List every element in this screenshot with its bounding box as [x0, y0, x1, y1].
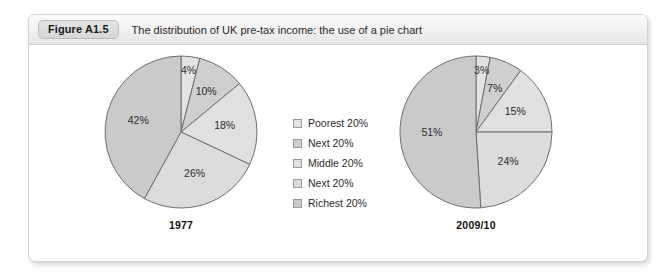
legend-item-next-20-lower: Next 20% — [293, 133, 389, 153]
pie-chart-1977: 4%10%18%26%42% 1977 — [101, 54, 261, 231]
legend-swatch-icon — [293, 199, 302, 208]
pie-slice-label: 42% — [128, 114, 149, 126]
legend-item-label: Poorest 20% — [308, 117, 368, 129]
legend-item-richest-20: Richest 20% — [293, 193, 389, 213]
chart-body: 4%10%18%26%42% 1977 Poorest 20% Next 20%… — [29, 45, 647, 262]
legend-item-label: Richest 20% — [308, 197, 367, 209]
pie-caption-1977: 1977 — [101, 219, 261, 231]
pie-chart-2009-10: 3%7%15%24%51% 2009/10 — [396, 54, 556, 231]
figure-panel: Figure A1.5 The distribution of UK pre-t… — [28, 14, 648, 262]
legend-swatch-icon — [293, 159, 302, 168]
pie-slice-label: 24% — [498, 155, 519, 167]
legend-item-label: Middle 20% — [308, 157, 363, 169]
pie-slice-label: 26% — [184, 167, 205, 179]
pie-svg-2009-10: 3%7%15%24%51% — [396, 54, 556, 214]
pie-slice-label: 10% — [196, 85, 217, 97]
pie-svg-1977: 4%10%18%26%42% — [101, 54, 261, 214]
pie-slice — [476, 132, 552, 208]
pie-caption-2009-10: 2009/10 — [396, 219, 556, 231]
legend-item-label: Next 20% — [308, 177, 354, 189]
pie-slice-label: 4% — [181, 64, 196, 76]
legend-swatch-icon — [293, 179, 302, 188]
pie-slice-label: 15% — [505, 105, 526, 117]
legend: Poorest 20% Next 20% Middle 20% Next 20%… — [293, 113, 389, 213]
pie-slice-label: 3% — [474, 64, 489, 76]
pie-slice-label: 7% — [487, 82, 502, 94]
legend-item-label: Next 20% — [308, 137, 354, 149]
legend-swatch-icon — [293, 139, 302, 148]
legend-item-middle-20: Middle 20% — [293, 153, 389, 173]
legend-item-poorest-20: Poorest 20% — [293, 113, 389, 133]
figure-header: Figure A1.5 The distribution of UK pre-t… — [29, 15, 647, 45]
legend-swatch-icon — [293, 119, 302, 128]
pie-slice-label: 18% — [214, 119, 235, 131]
figure-caption: The distribution of UK pre-tax income: t… — [132, 24, 422, 36]
pie-slice-label: 51% — [421, 126, 442, 138]
figure-number-badge: Figure A1.5 — [38, 20, 119, 39]
legend-item-next-20-upper: Next 20% — [293, 173, 389, 193]
